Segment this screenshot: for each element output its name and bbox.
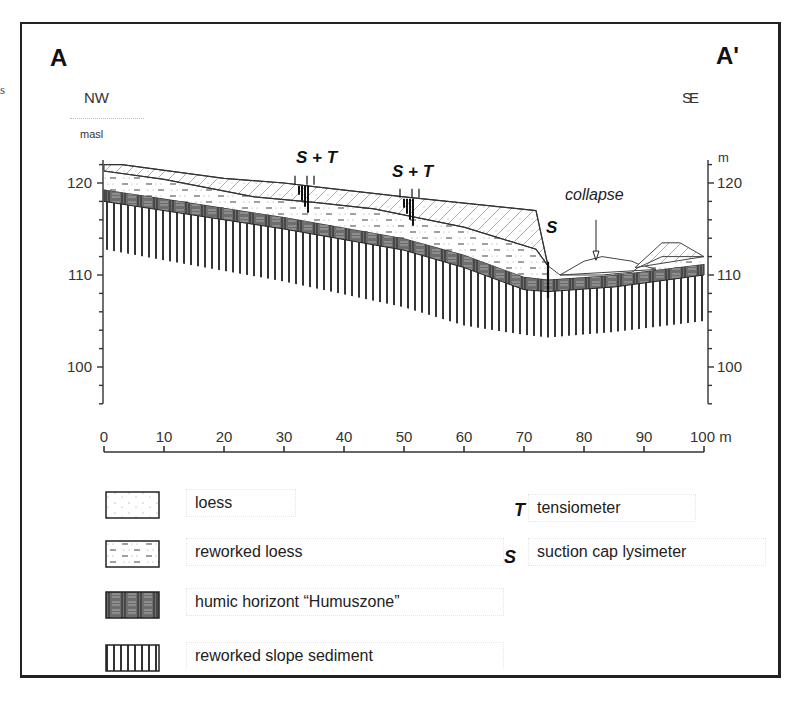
x-tick-label: 60 — [456, 428, 473, 445]
legend-swatch-slope-sediment — [106, 645, 159, 671]
legend-symbol-t: T — [514, 500, 525, 521]
legend-swatch-humic — [106, 592, 159, 618]
legend-label-tensiometer: tensiometer — [528, 494, 696, 522]
legend-swatch-reworked-loess — [106, 541, 159, 567]
legend-label-slope-sediment: reworked slope sediment — [186, 642, 504, 669]
y-tick-label-left: 100 — [67, 358, 92, 375]
legend-label-lysimeter: suction cap lysimeter — [528, 538, 766, 566]
layers-group — [104, 165, 704, 338]
y-tick-label-right: 120 — [717, 174, 742, 191]
x-tick-label: 30 — [276, 428, 293, 445]
x-tick-label: 90 — [636, 428, 653, 445]
legend-symbol-s: S — [504, 547, 516, 568]
y-tick-label-left: 120 — [67, 174, 92, 191]
x-tick-label: 70 — [516, 428, 533, 445]
x-tick-label: 40 — [336, 428, 353, 445]
legend-label-reworked-loess: reworked loess — [186, 538, 504, 566]
x-tick-label: 50 — [396, 428, 413, 445]
legend-swatch-loess — [106, 492, 159, 518]
x-tick-label: 0 — [100, 428, 108, 445]
y-tick-label-left: 110 — [68, 266, 92, 283]
legend-label-humic: humic horizont “Humuszone” — [186, 588, 504, 616]
y-tick-label-right: 100 — [717, 358, 742, 375]
y-tick-label-right: 110 — [717, 266, 741, 283]
x-tick-label: 10 — [156, 428, 173, 445]
x-tick-label: 20 — [216, 428, 233, 445]
legend-label-loess: loess — [186, 489, 296, 517]
x-tick-label: 80 — [576, 428, 593, 445]
x-tick-label: 100 m — [690, 428, 732, 445]
